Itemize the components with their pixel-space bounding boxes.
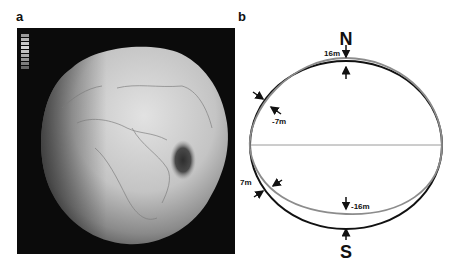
panel-a-label: a bbox=[16, 9, 23, 24]
north-mid-inner-arrow bbox=[271, 107, 281, 114]
south-anomaly-label: -16m bbox=[351, 202, 370, 211]
south-pole-label: S bbox=[340, 242, 352, 262]
geoid-low-anomaly bbox=[170, 140, 196, 180]
north-mid-anomaly-label: -7m bbox=[272, 117, 286, 126]
south-mid-inner-arrow bbox=[273, 180, 282, 186]
north-mid-outer-arrow bbox=[253, 92, 263, 99]
pear-shape-diagram: N 16m -7m 7m -16m S bbox=[236, 0, 458, 267]
south-mid-anomaly-label: 7m bbox=[240, 178, 252, 187]
globe-graphic bbox=[17, 28, 235, 254]
geoid-outline bbox=[250, 58, 442, 214]
north-anomaly-label: 16m bbox=[324, 49, 340, 58]
geoid-globe-panel bbox=[17, 28, 235, 254]
south-mid-outer-arrow bbox=[254, 191, 263, 197]
pear-shape-graphic: N 16m -7m 7m -16m S bbox=[236, 0, 458, 267]
